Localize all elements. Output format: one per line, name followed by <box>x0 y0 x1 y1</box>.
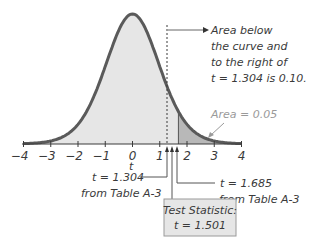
critical-value-1685-label: t = 1.685 <box>220 177 272 190</box>
arrow-up-icon <box>165 146 169 152</box>
arrow-up-icon <box>170 146 174 152</box>
critical-value-1304-source: from Table A-3 <box>81 187 161 200</box>
x-tick-label: 1 <box>156 149 164 163</box>
x-tick-label: −3 <box>38 149 56 163</box>
x-tick-label: 3 <box>210 149 218 163</box>
annotation-area-right: Area below the curve and to the right of… <box>210 24 307 85</box>
svg-text:to the right of: to the right of <box>211 56 289 69</box>
tail-pointer-line <box>211 123 224 135</box>
x-tick-label: −4 <box>11 149 29 163</box>
arrow-up-icon <box>175 146 179 152</box>
x-tick-label: −2 <box>65 149 83 163</box>
arrow-right-icon <box>203 27 209 33</box>
x-tick-label: −1 <box>92 149 110 163</box>
test-statistic-value: t = 1.501 <box>174 219 226 232</box>
svg-text:t = 1.304 is 0.10.: t = 1.304 is 0.10. <box>211 72 307 85</box>
svg-text:Area below: Area below <box>210 24 273 37</box>
svg-text:the curve and: the curve and <box>211 40 289 53</box>
critical-value-1304-label: t = 1.304 <box>92 171 144 184</box>
x-axis-tick-labels: −4−3−2−101234 <box>11 149 246 163</box>
x-tick-label: 4 <box>238 149 246 163</box>
x-tick-label: 2 <box>183 149 191 163</box>
test-statistic-title: Test Statistic: <box>163 204 237 217</box>
t-distribution-chart: −4−3−2−101234 t Area below the curve and… <box>0 0 313 251</box>
annotation-area-tail: Area = 0.05 <box>210 108 277 121</box>
